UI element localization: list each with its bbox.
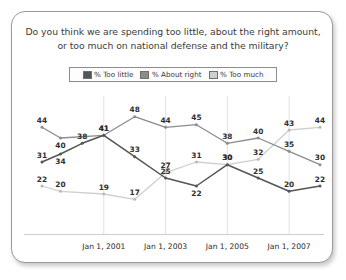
svg-text:40: 40 [55, 141, 65, 150]
svg-text:34: 34 [55, 157, 65, 166]
line-chart-svg: 3134384133252230252022444041484445384035… [12, 88, 332, 263]
svg-text:Jan 1, 2001: Jan 1, 2001 [81, 242, 125, 251]
svg-text:44: 44 [37, 116, 47, 125]
legend-item-about-right[interactable]: % About right [140, 70, 201, 79]
legend-swatch-about-right [140, 71, 149, 79]
chart-title: Do you think we are spending too little,… [24, 25, 322, 52]
svg-text:44: 44 [160, 116, 170, 125]
svg-text:40: 40 [253, 127, 263, 136]
svg-text:31: 31 [37, 151, 47, 160]
svg-text:22: 22 [37, 175, 47, 184]
svg-text:17: 17 [130, 188, 140, 197]
chart-x-tick-labels: Jan 1, 2001Jan 1, 2003Jan 1, 2005Jan 1, … [81, 242, 311, 251]
chart-series-layer [41, 115, 322, 201]
svg-text:22: 22 [315, 175, 325, 184]
svg-text:19: 19 [99, 183, 109, 192]
legend-label-about-right: % About right [152, 70, 202, 79]
legend-item-too-much[interactable]: % Too much [209, 70, 264, 79]
legend-swatch-too-much [209, 71, 218, 79]
svg-text:32: 32 [253, 148, 263, 157]
svg-text:41: 41 [99, 124, 109, 133]
svg-text:43: 43 [284, 119, 294, 128]
svg-text:48: 48 [130, 105, 140, 114]
svg-text:38: 38 [77, 132, 87, 141]
svg-text:27: 27 [160, 161, 170, 170]
svg-text:Jan 1, 2007: Jan 1, 2007 [267, 242, 311, 251]
chart-legend: % Too little % About right % Too much [69, 67, 277, 82]
legend-label-too-little: % Too little [94, 70, 133, 79]
svg-text:Jan 1, 2005: Jan 1, 2005 [205, 242, 249, 251]
legend-label-too-much: % Too much [220, 70, 263, 79]
svg-text:35: 35 [284, 140, 294, 149]
svg-text:31: 31 [191, 151, 201, 160]
chart-data-labels: 3134384133252230252022444041484445384035… [37, 105, 325, 198]
chart-card: Do you think we are spending too little,… [11, 11, 333, 263]
svg-text:45: 45 [191, 113, 201, 122]
svg-text:38: 38 [222, 132, 232, 141]
svg-text:20: 20 [284, 180, 294, 189]
svg-text:Jan 1, 2003: Jan 1, 2003 [143, 242, 187, 251]
svg-text:20: 20 [55, 180, 65, 189]
svg-text:30: 30 [222, 153, 232, 162]
svg-text:33: 33 [130, 145, 140, 154]
svg-text:22: 22 [191, 189, 201, 198]
svg-text:25: 25 [253, 167, 263, 176]
legend-swatch-too-little [83, 71, 92, 79]
chart-plot-area: 3134384133252230252022444041484445384035… [12, 88, 332, 263]
svg-text:30: 30 [315, 153, 325, 162]
svg-text:44: 44 [315, 116, 325, 125]
legend-item-too-little[interactable]: % Too little [83, 70, 134, 79]
